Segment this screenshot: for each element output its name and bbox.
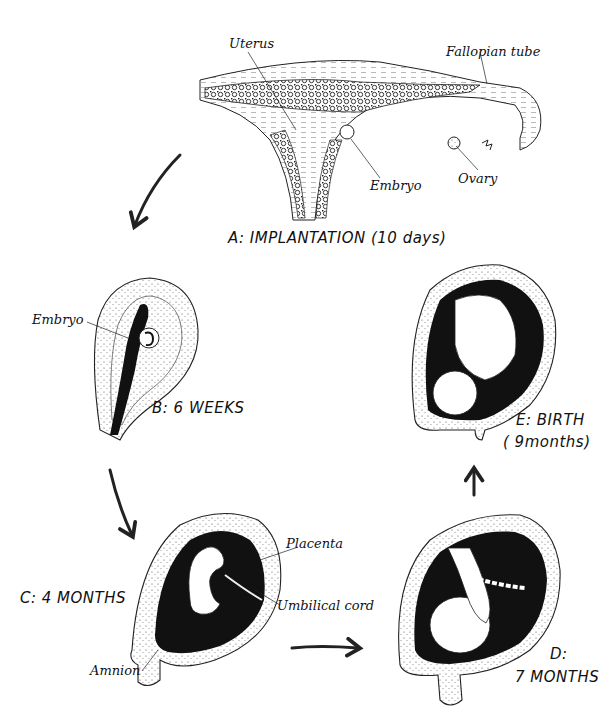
- label-amnion: Amnion: [90, 663, 140, 678]
- label-umbilical-cord: Umbilical cord: [277, 598, 374, 613]
- label-embryo-a: Embryo: [370, 178, 422, 193]
- label-uterus: Uterus: [229, 36, 274, 51]
- stage-a-uterus-drawing: [200, 52, 541, 220]
- stage-label-e-line2: ( 9months): [503, 433, 591, 451]
- stage-label-d-line2: 7 MONTHS: [515, 668, 599, 686]
- arrow-b-to-c: [110, 470, 132, 535]
- stage-c-uterus-drawing: [131, 514, 298, 686]
- stage-label-b: B: 6 WEEKS: [152, 399, 245, 417]
- stage-label-c: C: 4 MONTHS: [20, 589, 126, 607]
- arrow-a-to-b: [135, 155, 180, 225]
- stage-label-a: A: IMPLANTATION (10 days): [228, 229, 446, 247]
- label-ovary: Ovary: [458, 171, 497, 186]
- arrow-c-to-d: [292, 647, 358, 649]
- label-embryo-b: Embryo: [32, 312, 84, 327]
- label-placenta: Placenta: [286, 536, 343, 551]
- label-fallopian-tube: Fallopian tube: [446, 44, 540, 59]
- stage-label-d-line1: D:: [550, 645, 568, 663]
- stage-label-e-line1: E: BIRTH: [516, 411, 585, 429]
